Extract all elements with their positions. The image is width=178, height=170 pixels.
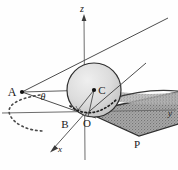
label-point-B: B <box>61 118 68 130</box>
geometry-figure: z y x A C B O P θ <box>0 0 178 170</box>
label-x: x <box>57 144 62 154</box>
marker-C <box>92 88 96 92</box>
label-y: y <box>167 108 172 118</box>
marker-A <box>20 90 24 94</box>
label-point-C: C <box>98 84 105 96</box>
diagram-canvas: z y x A C B O P θ <box>0 0 178 170</box>
label-z: z <box>79 3 84 14</box>
label-point-P: P <box>134 138 140 150</box>
label-angle-theta: θ <box>41 91 46 102</box>
label-point-O: O <box>83 117 91 129</box>
label-point-A: A <box>8 85 17 99</box>
